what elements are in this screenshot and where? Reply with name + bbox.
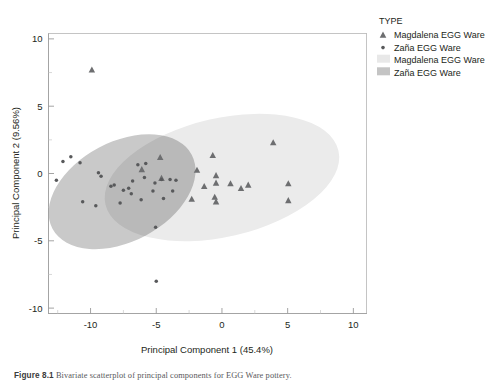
y-axis-title: Principal Component 2 (9.56%): [10, 107, 21, 239]
dot-marker: [78, 161, 82, 165]
dot-marker: [97, 171, 101, 175]
legend-item-1[interactable]: Magdalena EGG Ware: [380, 30, 485, 40]
figure-container: -10-50510-10-50510 Principal Component 1…: [0, 0, 498, 383]
dot-marker: [122, 189, 126, 193]
dot-marker: [136, 163, 140, 167]
legend-color-swatch: [377, 55, 390, 63]
x-axis-title: Principal Component 1 (45.4%): [141, 344, 273, 355]
dot-marker: [171, 189, 175, 193]
dot-marker: [55, 178, 59, 182]
caption-body: Bivariate scatterplot of principal compo…: [56, 371, 292, 380]
x-tick-label: 0: [219, 319, 224, 330]
legend-item-4[interactable]: Zaña EGG Ware: [377, 67, 461, 78]
caption-label: Figure 8.1: [14, 371, 54, 380]
x-tick-label: -10: [84, 319, 98, 330]
dot-marker: [130, 192, 134, 196]
dot-marker: [99, 174, 103, 178]
legend-item-label: Zaña EGG Ware: [394, 68, 461, 78]
dot-marker: [151, 189, 155, 193]
dot-marker: [94, 204, 98, 208]
dot-marker: [112, 183, 116, 187]
dot-marker: [154, 226, 158, 230]
legend-item-label: Magdalena EGG Ware: [394, 30, 485, 40]
dot-marker: [162, 197, 166, 201]
dot-marker: [168, 178, 172, 182]
dot-marker: [155, 279, 159, 283]
y-tick-label: 0: [37, 168, 42, 179]
dot-marker: [139, 198, 143, 202]
pca-scatter-plot: -10-50510-10-50510 Principal Component 1…: [0, 0, 498, 383]
dot-marker: [69, 155, 73, 159]
legend: TYPE Magdalena EGG WareZaña EGG WareMagd…: [377, 16, 485, 78]
legend-title: TYPE: [379, 16, 403, 26]
legend-item-label: Zaña EGG Ware: [394, 43, 461, 53]
legend-item-2[interactable]: Zaña EGG Ware: [381, 43, 460, 53]
x-tick-label: 10: [348, 319, 359, 330]
dot-marker: [153, 181, 157, 185]
x-tick-label: -5: [152, 319, 160, 330]
x-tick-label: 5: [285, 319, 290, 330]
confidence-ellipse-layer: [29, 93, 352, 273]
y-tick-label: 5: [37, 101, 42, 112]
y-tick-label: 10: [32, 33, 43, 44]
dot-marker: [118, 201, 122, 205]
dot-marker: [160, 178, 164, 182]
legend-item-3[interactable]: Magdalena EGG Ware: [377, 55, 485, 65]
dot-marker: [131, 179, 135, 183]
dot-marker: [143, 176, 147, 180]
y-tick-label: -5: [34, 235, 42, 246]
figure-caption: Figure 8.1 Bivariate scatterplot of prin…: [14, 371, 474, 380]
dot-marker: [127, 187, 131, 191]
triangle-marker: [380, 32, 387, 38]
caption-divider: [0, 360, 498, 361]
dot-marker: [174, 178, 178, 182]
triangle-marker: [89, 66, 95, 72]
dot-marker: [144, 162, 148, 166]
y-tick-label: -10: [29, 303, 43, 314]
dot-marker: [109, 185, 113, 189]
dot-marker: [381, 46, 385, 50]
legend-color-swatch: [377, 67, 390, 75]
legend-item-label: Magdalena EGG Ware: [394, 55, 485, 65]
dot-marker: [81, 200, 85, 204]
dot-marker: [61, 160, 65, 164]
